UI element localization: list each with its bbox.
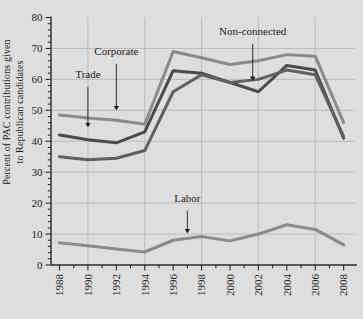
x-tick-label: 2006 <box>309 274 321 297</box>
series-label-non-connected: Non-connected <box>219 25 287 37</box>
x-tick-label: 1994 <box>139 274 151 297</box>
x-tick-label: 1990 <box>82 274 94 297</box>
series-label-labor: Labor <box>174 192 201 204</box>
x-tick-label: 1998 <box>195 274 207 297</box>
x-tick-label: 2000 <box>224 274 236 297</box>
x-tick-label: 2004 <box>281 274 293 297</box>
y-axis-title-text: Percent of PAC contributions given to Re… <box>1 12 26 212</box>
y-axis-title: Percent of PAC contributions given to Re… <box>1 12 41 212</box>
x-tick-label: 1996 <box>167 274 179 297</box>
x-tick-label: 1992 <box>110 274 122 296</box>
y-tick-label: 0 <box>37 259 43 271</box>
series-label-trade: Trade <box>75 68 100 80</box>
chart-background <box>0 0 363 319</box>
chart-container: TradeCorporateNon-connectedLabor 0102030… <box>0 0 363 319</box>
x-tick-label: 2008 <box>337 274 349 297</box>
y-tick-label: 10 <box>32 228 44 240</box>
pac-contributions-line-chart: TradeCorporateNon-connectedLabor 0102030… <box>0 0 363 319</box>
x-tick-label: 2002 <box>252 274 264 296</box>
series-label-corporate: Corporate <box>94 45 138 57</box>
x-tick-label: 1988 <box>53 274 65 297</box>
